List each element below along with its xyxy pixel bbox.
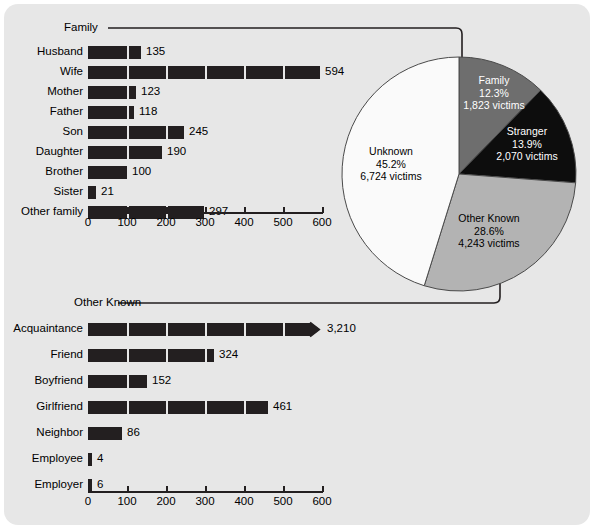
bar-value-label: 6 [97, 478, 103, 491]
axis-tick-label: 0 [85, 216, 91, 228]
bar-label: Employer [0, 478, 83, 491]
bar [88, 427, 122, 440]
pie-slice-name: Family [463, 74, 524, 87]
pie-slice-name: Unknown [360, 145, 421, 158]
bar-value-label: 21 [101, 185, 114, 198]
bar-label: Neighbor [0, 426, 83, 439]
axis-tick-label: 0 [85, 495, 91, 507]
bar-label: Acquaintance [0, 322, 83, 335]
pie-slice-victims: 1,823 victims [463, 99, 524, 112]
bar-segment-divider [127, 46, 129, 59]
bar-value-label: 100 [132, 165, 151, 178]
axis-tick-label: 200 [156, 495, 175, 507]
bar-segment-divider [166, 126, 168, 139]
bar [88, 186, 96, 199]
bar-value-label: 245 [189, 125, 208, 138]
axis-tick-label: 500 [273, 216, 292, 228]
bar [88, 166, 127, 179]
bar [88, 66, 320, 79]
axis-tick [205, 486, 207, 492]
axis-tick [283, 207, 285, 213]
bar [88, 146, 162, 159]
axis-tick [322, 486, 324, 492]
pie-slice-victims: 2,070 victims [496, 150, 557, 163]
bar-segment-divider [166, 323, 168, 336]
bar-value-label: 324 [219, 348, 238, 361]
bar-label: Sister [0, 185, 83, 198]
bar-segment-divider [127, 323, 129, 336]
axis-tick-label: 600 [312, 495, 331, 507]
axis-tick [244, 486, 246, 492]
bar-label: Friend [0, 348, 83, 361]
bar-value-label: 3,210 [327, 322, 356, 335]
pie-slice-percent: 28.6% [458, 225, 519, 238]
bar-value-label: 118 [139, 105, 157, 118]
pie-slice-percent: 12.3% [463, 87, 524, 100]
axis-tick-label: 300 [195, 216, 214, 228]
pie-slice-name: Stranger [496, 125, 557, 138]
axis-tick [244, 207, 246, 213]
bar [88, 375, 147, 388]
axis-tick-label: 400 [234, 216, 253, 228]
bar [88, 126, 184, 139]
bar-label: Mother [0, 85, 83, 98]
pie-slice-name: Other Known [458, 212, 519, 225]
bar-label: Girlfriend [0, 400, 83, 413]
bar [88, 86, 136, 99]
pie-slice-victims: 6,724 victims [360, 170, 421, 183]
bar-segment-divider [127, 146, 129, 159]
axis-tick-label: 300 [195, 495, 214, 507]
bar-segment-divider [166, 66, 168, 79]
bar-value-label: 123 [141, 85, 160, 98]
bar-value-label: 4 [97, 452, 103, 465]
axis-tick [127, 486, 129, 492]
axis-tick-label: 100 [117, 216, 136, 228]
bar-value-label: 152 [152, 374, 171, 387]
bar-segment-divider [205, 66, 207, 79]
bar-segment-divider [127, 126, 129, 139]
bar-segment-divider [244, 66, 246, 79]
bar-value-label: 135 [146, 45, 165, 58]
axis-tick-label: 200 [156, 216, 175, 228]
bar-segment-divider [127, 106, 129, 119]
bar-label: Father [0, 105, 83, 118]
axis-tick-label: 100 [117, 495, 136, 507]
axis-tick [88, 207, 90, 213]
bar [88, 106, 134, 119]
pie-slice-label: Stranger13.9%2,070 victims [496, 125, 557, 163]
bar-segment-divider [205, 401, 207, 414]
bar-segment-divider [244, 401, 246, 414]
bar-segment-divider [166, 349, 168, 362]
bar [88, 349, 214, 362]
axis-tick [127, 207, 129, 213]
axis-tick [322, 207, 324, 213]
axis-tick [166, 486, 168, 492]
axis-tick-label: 600 [312, 216, 331, 228]
bar-label: Daughter [0, 145, 83, 158]
bar-value-label: 461 [273, 400, 292, 413]
bar-segment-divider [283, 66, 285, 79]
axis-tick-label: 400 [234, 495, 253, 507]
bar-segment-divider [127, 349, 129, 362]
pie-slice-victims: 4,243 victims [458, 237, 519, 250]
bar-segment-divider [127, 401, 129, 414]
bar-label: Boyfriend [0, 374, 83, 387]
bar-segment-divider [244, 323, 246, 336]
bar-value-label: 594 [325, 65, 344, 78]
axis-break-marker [307, 323, 323, 336]
pie-slice-percent: 45.2% [360, 158, 421, 171]
bar-segment-divider [127, 86, 129, 99]
bar-segment-divider [205, 323, 207, 336]
pie-slice-label: Family12.3%1,823 victims [463, 74, 524, 112]
axis-tick [166, 207, 168, 213]
pie-slice-percent: 13.9% [496, 138, 557, 151]
bar-label: Other family [0, 205, 83, 218]
bar-label: Wife [0, 65, 83, 78]
bar-segment-divider [127, 375, 129, 388]
axis-tick-label: 500 [273, 495, 292, 507]
family-section-title: Family [64, 21, 98, 33]
bar-label: Employee [0, 452, 83, 465]
bar-label: Husband [0, 45, 83, 58]
bar [88, 46, 141, 59]
axis-tick [283, 486, 285, 492]
